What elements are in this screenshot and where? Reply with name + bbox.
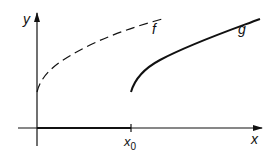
curve-g-label: g <box>238 21 246 37</box>
x0-label: x0 <box>123 134 137 152</box>
diagram-svg: y x f g x0 <box>0 0 272 161</box>
curve-f <box>37 18 166 92</box>
diagram: y x f g x0 <box>0 0 272 161</box>
y-axis-label: y <box>22 11 31 27</box>
x-axis-label: x <box>250 131 259 147</box>
curve-f-label: f <box>152 21 158 37</box>
